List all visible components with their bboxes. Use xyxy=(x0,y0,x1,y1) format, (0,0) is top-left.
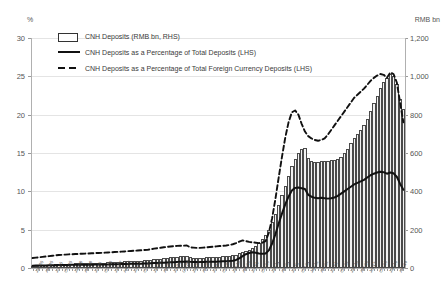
legend-item-bar: CNH Deposits (RMB bn, RHS) xyxy=(58,28,358,44)
x-axis-tickmark xyxy=(118,269,119,271)
x-axis-tickmark xyxy=(49,269,50,271)
right-axis-tick-label: 800 xyxy=(410,111,436,120)
x-axis-tickmark xyxy=(302,269,303,271)
x-axis-tickmark xyxy=(262,269,263,271)
x-axis-tickmark xyxy=(305,269,306,271)
legend-label: CNH Deposits (RMB bn, RHS) xyxy=(85,33,180,40)
x-axis-tickmark xyxy=(177,269,178,271)
x-axis-tickmark xyxy=(167,269,168,271)
legend-swatch-bar-icon xyxy=(58,31,82,41)
x-axis-tickmark xyxy=(400,269,401,271)
x-axis-tickmark xyxy=(325,269,326,271)
legend-swatch-dash-icon xyxy=(58,63,82,73)
x-axis-tickmark xyxy=(184,269,185,271)
x-axis-tickmark xyxy=(174,269,175,271)
right-axis-tick-label: 600 xyxy=(410,149,436,158)
left-axis-tick-label: 0 xyxy=(5,264,25,273)
x-axis-tickmark xyxy=(374,269,375,271)
x-axis-tickmark xyxy=(384,269,385,271)
x-axis-tickmark xyxy=(157,269,158,271)
x-axis-tickmark xyxy=(98,269,99,271)
x-axis-tickmark xyxy=(295,269,296,271)
x-axis-tickmark xyxy=(285,269,286,271)
legend-label: CNH Deposits as a Percentage of Total Fo… xyxy=(85,65,312,72)
cnh-deposits-chart: % RMB bn 005200104001560020800251,000301… xyxy=(0,0,446,302)
x-axis-tickmark xyxy=(390,269,391,271)
right-axis-tick-label: 0 xyxy=(410,264,436,273)
x-axis-tickmark xyxy=(292,269,293,271)
x-axis-tickmark xyxy=(125,269,126,271)
x-axis-tickmark xyxy=(223,269,224,271)
x-axis-tickmark xyxy=(88,269,89,271)
x-axis-tickmark xyxy=(138,269,139,271)
x-axis-tickmark xyxy=(56,269,57,271)
x-axis-tickmark xyxy=(85,269,86,271)
x-axis-tickmark xyxy=(59,269,60,271)
right-axis-tickmark xyxy=(405,268,408,269)
legend-item-dash: CNH Deposits as a Percentage of Total Fo… xyxy=(58,60,358,76)
x-axis-tickmark xyxy=(315,269,316,271)
x-axis-tickmark xyxy=(164,269,165,271)
x-axis-tickmark xyxy=(236,269,237,271)
left-axis-tick-label: 15 xyxy=(5,149,25,158)
x-axis-tickmark xyxy=(226,269,227,271)
x-axis-tickmark xyxy=(282,269,283,271)
x-axis-tickmark xyxy=(216,269,217,271)
x-axis-tickmark xyxy=(197,269,198,271)
x-axis-tickmark xyxy=(351,269,352,271)
x-axis-tickmark xyxy=(108,269,109,271)
right-axis-line xyxy=(405,38,406,268)
x-axis-tickmark xyxy=(334,269,335,271)
x-axis-tickmark xyxy=(79,269,80,271)
left-axis-tick-label: 30 xyxy=(5,34,25,43)
right-axis-tick-label: 200 xyxy=(410,226,436,235)
x-axis-labels: Jan-05Apr-05Jul-05Oct-05Jan-06Apr-06Jul-… xyxy=(31,269,405,302)
left-axis-tick-label: 25 xyxy=(5,72,25,81)
x-axis-tickmark xyxy=(272,269,273,271)
x-axis-tickmark xyxy=(115,269,116,271)
left-axis-unit-label: % xyxy=(27,16,33,23)
x-axis-tickmark xyxy=(95,269,96,271)
x-axis-tickmark xyxy=(75,269,76,271)
x-axis-tickmark xyxy=(154,269,155,271)
left-axis-tick-label: 20 xyxy=(5,111,25,120)
x-axis-tickmark xyxy=(361,269,362,271)
legend-swatch-solid-icon xyxy=(58,47,82,57)
x-axis-tickmark xyxy=(246,269,247,271)
x-axis-tickmark xyxy=(364,269,365,271)
x-axis-tickmark xyxy=(403,269,404,271)
x-axis-tickmark xyxy=(65,269,66,271)
right-axis-tick-label: 1,000 xyxy=(410,72,436,81)
chart-legend: CNH Deposits (RMB bn, RHS)CNH Deposits a… xyxy=(58,28,358,76)
x-axis-tickmark xyxy=(243,269,244,271)
x-axis-tickmark xyxy=(266,269,267,271)
x-axis-tickmark xyxy=(233,269,234,271)
x-axis-tickmark xyxy=(193,269,194,271)
x-axis-tickmark xyxy=(128,269,129,271)
x-axis-tickmark xyxy=(36,269,37,271)
line-total-deposits-pct xyxy=(33,172,404,266)
x-axis-tickmark xyxy=(331,269,332,271)
legend-label: CNH Deposits as a Percentage of Total De… xyxy=(85,49,256,56)
x-axis-tickmark xyxy=(39,269,40,271)
x-axis-tickmark xyxy=(203,269,204,271)
x-axis-tickmark xyxy=(275,269,276,271)
line-foreign-currency-pct xyxy=(33,73,404,259)
x-axis-tickmark xyxy=(312,269,313,271)
right-axis-tick-label: 400 xyxy=(410,187,436,196)
x-axis-tickmark xyxy=(321,269,322,271)
x-axis-tickmark xyxy=(252,269,253,271)
x-axis-tickmark xyxy=(105,269,106,271)
x-axis-tickmark xyxy=(344,269,345,271)
x-axis-tickmark xyxy=(354,269,355,271)
x-axis-tickmark xyxy=(256,269,257,271)
x-axis-tickmark xyxy=(69,269,70,271)
x-axis-tickmark xyxy=(371,269,372,271)
x-axis-tickmark xyxy=(213,269,214,271)
x-axis-tickmark xyxy=(394,269,395,271)
x-axis-tickmark xyxy=(147,269,148,271)
x-axis-tickmark xyxy=(187,269,188,271)
left-axis-tick-label: 10 xyxy=(5,187,25,196)
legend-item-solid: CNH Deposits as a Percentage of Total De… xyxy=(58,44,358,60)
right-axis-unit-label: RMB bn xyxy=(415,16,440,23)
